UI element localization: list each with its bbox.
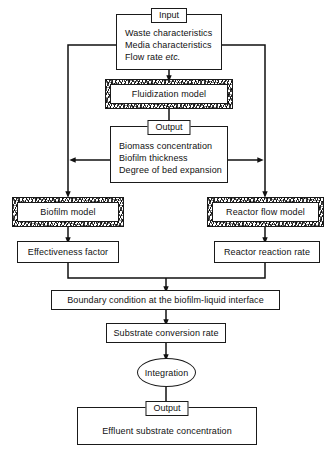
- node-output-mid-caption: Output: [147, 120, 190, 135]
- node-input-line-3-italic: etc.: [166, 52, 181, 62]
- node-output-mid-lines: Biomass concentration Biofilm thickness …: [111, 140, 227, 176]
- node-input-line-1: Waste characteristics: [125, 27, 212, 39]
- node-output-mid-line-1: Biomass concentration: [119, 140, 212, 152]
- node-input-line-2: Media characteristics: [125, 39, 212, 51]
- node-effectiveness-factor-label: Effectiveness factor: [28, 246, 108, 258]
- node-output-final-caption: Output: [145, 401, 188, 416]
- node-output-mid-line-3: Degree of bed expansion: [119, 164, 222, 176]
- node-boundary-condition[interactable]: Boundary condition at the biofilm-liquid…: [51, 290, 280, 310]
- node-output-mid[interactable]: Output Biomass concentration Biofilm thi…: [110, 126, 228, 183]
- node-output-final-line-1: Effluent substrate concentration: [102, 425, 232, 437]
- flowchart-canvas: Input Waste characteristics Media charac…: [0, 0, 333, 454]
- node-boundary-condition-label: Boundary condition at the biofilm-liquid…: [67, 294, 264, 306]
- node-input-lines: Waste characteristics Media characterist…: [117, 27, 221, 63]
- node-reactor-reaction-rate-label: Reactor reaction rate: [224, 246, 310, 258]
- node-reactor-flow-model-inner: Reactor flow model: [212, 202, 319, 222]
- node-reactor-flow-model[interactable]: Reactor flow model: [207, 197, 324, 227]
- node-biofilm-model-inner: Biofilm model: [17, 202, 119, 222]
- node-biofilm-model[interactable]: Biofilm model: [12, 197, 124, 227]
- node-input-caption: Input: [151, 8, 187, 23]
- node-substrate-conversion-rate-label: Substrate conversion rate: [113, 327, 218, 339]
- node-reactor-flow-model-label: Reactor flow model: [226, 206, 305, 218]
- node-biofilm-model-label: Biofilm model: [40, 206, 95, 218]
- node-integration-label: Integration: [145, 367, 189, 379]
- node-fluidization-model[interactable]: Fluidization model: [105, 79, 233, 109]
- node-output-final[interactable]: Output Effluent substrate concentration: [77, 407, 257, 445]
- node-substrate-conversion-rate[interactable]: Substrate conversion rate: [106, 323, 226, 343]
- node-reactor-reaction-rate[interactable]: Reactor reaction rate: [214, 241, 320, 263]
- node-effectiveness-factor[interactable]: Effectiveness factor: [17, 241, 119, 263]
- node-fluidization-model-inner: Fluidization model: [110, 84, 228, 104]
- node-fluidization-model-label: Fluidization model: [132, 88, 206, 100]
- node-output-mid-line-2: Biofilm thickness: [119, 152, 188, 164]
- node-integration[interactable]: Integration: [137, 358, 196, 387]
- node-input[interactable]: Input Waste characteristics Media charac…: [116, 14, 222, 70]
- node-input-line-3: Flow rate etc.: [125, 51, 180, 63]
